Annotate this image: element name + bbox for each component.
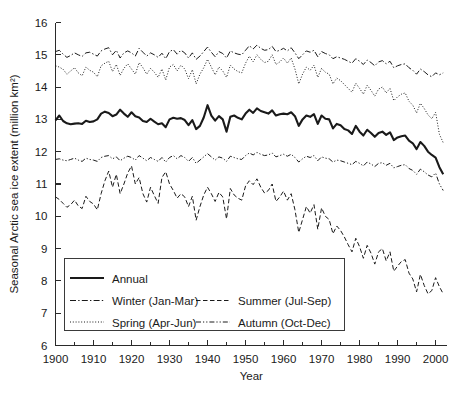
legend-label-annual: Annual (112, 273, 148, 285)
y-tick-label: 7 (41, 307, 47, 319)
legend-label-winter-jan-mar: Winter (Jan-Mar) (112, 295, 198, 307)
legend-label-autumn-oct-dec: Autumn (Oct-Dec) (238, 317, 331, 329)
figure-container: 6789101112131415161900191019201930194019… (0, 0, 461, 396)
x-tick-label: 1950 (233, 353, 259, 365)
legend-label-summer-jul-sep: Summer (Jul-Sep) (238, 295, 331, 307)
x-tick-label: 1980 (347, 353, 373, 365)
y-tick-label: 12 (35, 146, 48, 158)
y-tick-label: 6 (41, 340, 47, 352)
y-tick-label: 11 (36, 178, 48, 190)
x-tick-label: 1900 (43, 353, 69, 365)
seasonal-arctic-sea-ice-extent-chart: 6789101112131415161900191019201930194019… (0, 0, 461, 396)
x-tick-label: 1970 (309, 353, 335, 365)
x-tick-label: 1990 (385, 353, 411, 365)
x-tick-label: 1930 (157, 353, 183, 365)
y-tick-label: 8 (41, 275, 47, 287)
y-tick-label: 9 (41, 243, 47, 255)
y-tick-label: 10 (35, 210, 48, 222)
y-axis-title: Seasonal Arctic sea ice extent (million … (8, 74, 20, 293)
y-tick-label: 13 (35, 113, 48, 125)
legend-label-spring-apr-jun: Spring (Apr-Jun) (112, 317, 197, 329)
x-tick-label: 1920 (119, 353, 145, 365)
plot-background (0, 0, 461, 396)
x-axis-title: Year (240, 370, 263, 382)
x-tick-label: 2000 (423, 353, 449, 365)
y-tick-label: 15 (35, 49, 48, 61)
y-tick-label: 16 (35, 17, 48, 29)
x-tick-label: 1960 (271, 353, 297, 365)
y-tick-label: 14 (35, 81, 48, 93)
x-tick-label: 1940 (195, 353, 221, 365)
x-tick-label: 1910 (81, 353, 107, 365)
chart-legend: AnnualWinter (Jan-Mar)Summer (Jul-Sep)Sp… (65, 259, 345, 331)
